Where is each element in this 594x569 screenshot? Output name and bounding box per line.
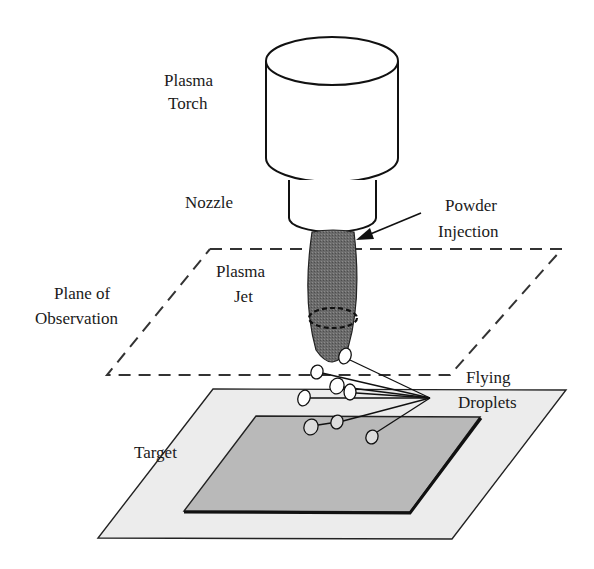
label-flying-droplets-line2: Droplets [458, 393, 517, 412]
plasma-jet [308, 230, 357, 362]
label-nozzle: Nozzle [185, 193, 233, 212]
label-powder-injection-line1: Powder [445, 196, 497, 215]
label-flying-droplets-line1: Flying [466, 368, 511, 387]
label-powder-injection-line2: Injection [438, 222, 499, 241]
plasma-torch [266, 37, 398, 182]
label-plasma-jet-line2: Jet [234, 287, 253, 306]
label-plane-of-observation-line1: Plane of [54, 284, 111, 303]
nozzle [289, 180, 376, 232]
label-plasma-jet-line1: Plasma [216, 262, 266, 281]
label-plane-of-observation-line2: Observation [35, 309, 119, 328]
label-plasma-torch-line1: Plasma [164, 71, 214, 90]
plasma-spray-diagram: Plasma Torch Nozzle Powder Injection Pla… [0, 0, 594, 569]
label-plasma-torch-line2: Torch [168, 94, 208, 113]
label-target: Target [134, 443, 177, 462]
